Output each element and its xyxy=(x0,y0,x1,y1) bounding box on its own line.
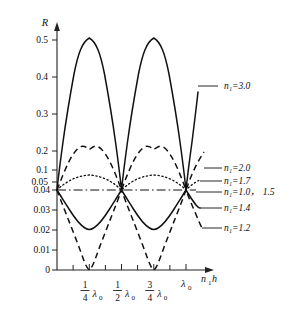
axis-group xyxy=(54,22,214,273)
chart-svg: R 0.5 0.4 0.3 0.2 0.1 0.05 0.04 0.03 0.0… xyxy=(0,0,290,310)
figure-reflectance-vs-thickness: R 0.5 0.4 0.3 0.2 0.1 0.05 0.04 0.03 0.0… xyxy=(0,0,290,310)
legend-label-n1-1.0-1.5: n₁=1.0， 1.5 xyxy=(224,187,275,197)
x-axis-title: n 1 h xyxy=(201,273,217,287)
y-tick-label-9: 0.01 xyxy=(33,245,50,255)
x-tick-num-2: 3 xyxy=(147,280,152,290)
x-tick-den-2: 4 xyxy=(147,293,152,303)
y-tick-label-3: 0.2 xyxy=(36,146,48,156)
x-tick-lambda-sub-0: 0 xyxy=(99,294,103,302)
y-tick-label-6: 0.04 xyxy=(33,185,50,195)
x-tick-lambda-sub-1: 0 xyxy=(132,294,136,302)
y-axis-arrow-icon xyxy=(54,22,60,31)
legend-label-n1-1.2: n₁=1.2 xyxy=(224,223,251,233)
curve-n1-1.7 xyxy=(57,175,200,190)
y-tick-label-10: 0 xyxy=(45,265,50,275)
y-tick-label-0: 0.5 xyxy=(36,35,48,45)
x-tick-label-half: 1 2 λ 0 xyxy=(113,280,136,303)
y-tick-label-2: 0.3 xyxy=(36,109,48,119)
legend-label-n1-2.0: n₁=2.0 xyxy=(224,163,251,173)
x-tick-lambda-3: λ xyxy=(180,278,186,289)
curves-group xyxy=(57,38,204,270)
x-tick-label-threequarter: 3 4 λ 0 xyxy=(145,280,168,303)
legend-label-n1-3.0: n₁=3.0 xyxy=(224,81,251,91)
x-tick-lambda-1: λ xyxy=(124,288,130,299)
x-tick-lambda-2: λ xyxy=(156,288,162,299)
legend-leaders xyxy=(196,86,222,228)
x-axis-title-h: h xyxy=(212,273,217,284)
y-ticks-upper xyxy=(52,40,57,182)
x-axis-title-n: n xyxy=(201,273,206,284)
y-axis-title: R xyxy=(41,17,49,28)
y-tick-label-1: 0.4 xyxy=(36,72,48,82)
x-ticks xyxy=(73,264,186,270)
x-tick-den-0: 4 xyxy=(83,293,88,303)
x-tick-num-1: 1 xyxy=(115,280,120,290)
x-tick-num-0: 1 xyxy=(83,280,88,290)
y-tick-label-4: 0.1 xyxy=(36,165,48,175)
legend-label-n1-1.7: n₁=1.7 xyxy=(224,176,252,186)
y-tick-label-8: 0.02 xyxy=(33,225,50,235)
x-tick-label-quarter: 1 4 λ 0 xyxy=(81,280,104,303)
legend-group: n₁=3.0 n₁=2.0 n₁=1.7 n₁=1.0， 1.5 n₁=1.4 … xyxy=(224,81,275,233)
x-tick-label-lambda: λ 0 xyxy=(180,278,192,292)
y-tick-label-7: 0.03 xyxy=(33,205,50,215)
x-tick-lambda-sub-3: 0 xyxy=(188,284,192,292)
x-tick-den-1: 2 xyxy=(115,293,120,303)
legend-label-n1-1.4: n₁=1.4 xyxy=(224,203,251,213)
y-ticks-lower xyxy=(52,190,57,270)
x-tick-lambda-sub-2: 0 xyxy=(164,294,168,302)
x-tick-lambda-0: λ xyxy=(92,288,98,299)
